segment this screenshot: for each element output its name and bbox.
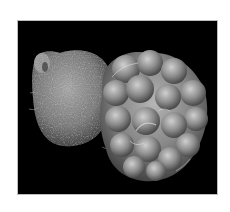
- rough-body: [29, 50, 111, 148]
- lobed-cluster: [100, 50, 208, 181]
- sem-specimen-image: [18, 21, 218, 195]
- micrograph-frame: [17, 20, 218, 195]
